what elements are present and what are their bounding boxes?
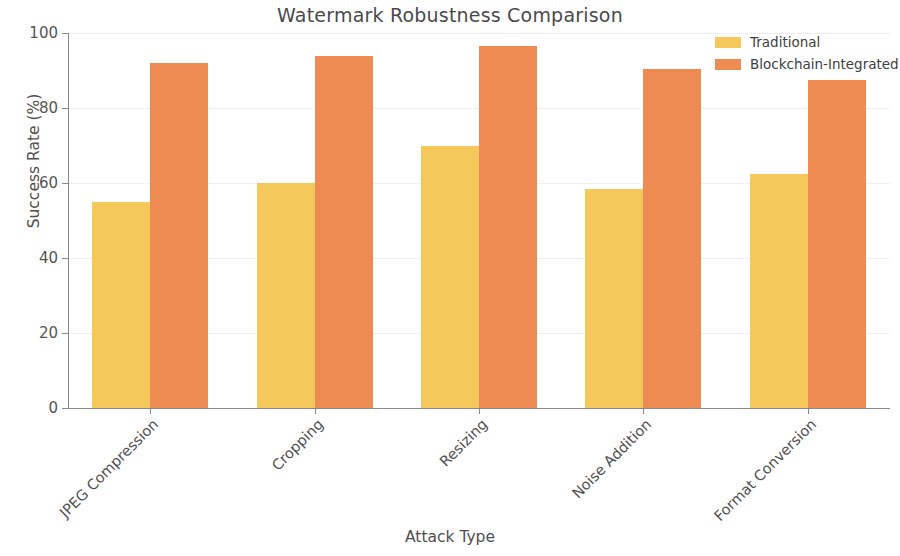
legend-item: Traditional [715,31,895,53]
bar [479,46,537,408]
legend-item: Blockchain-Integrated [715,53,895,75]
legend-label: Blockchain-Integrated [750,56,899,72]
y-axis-label: Success Rate (%) [25,31,43,291]
bar [643,69,701,408]
x-axis-tick [643,408,644,414]
bar [315,56,373,409]
y-axis-tick [62,408,68,409]
chart-title: Watermark Robustness Comparison [0,4,900,26]
x-axis-tick [315,408,316,414]
bar [92,202,150,408]
y-axis-spine [68,33,69,408]
bar [421,146,479,409]
x-axis-tick [808,408,809,414]
x-axis-label: Attack Type [0,528,900,546]
y-axis-tick [62,108,68,109]
legend-label: Traditional [750,34,820,50]
x-axis-tick [150,408,151,414]
y-axis-tick [62,183,68,184]
bar [750,174,808,408]
y-axis-tick [62,33,68,34]
y-axis-tick [62,258,68,259]
chart-figure: Watermark Robustness Comparison 02040608… [0,0,900,556]
plot-area [68,33,890,408]
x-axis-tick [479,408,480,414]
legend-color-swatch [715,37,741,48]
chart-legend: TraditionalBlockchain-Integrated [715,31,895,75]
y-axis-tick-label: 20 [6,324,58,342]
bar-series-container [68,33,890,408]
y-axis-tick-label: 0 [6,399,58,417]
bar [257,183,315,408]
bar [150,63,208,408]
legend-color-swatch [715,59,741,70]
bar [808,80,866,408]
y-axis-tick [62,333,68,334]
bar [585,189,643,408]
